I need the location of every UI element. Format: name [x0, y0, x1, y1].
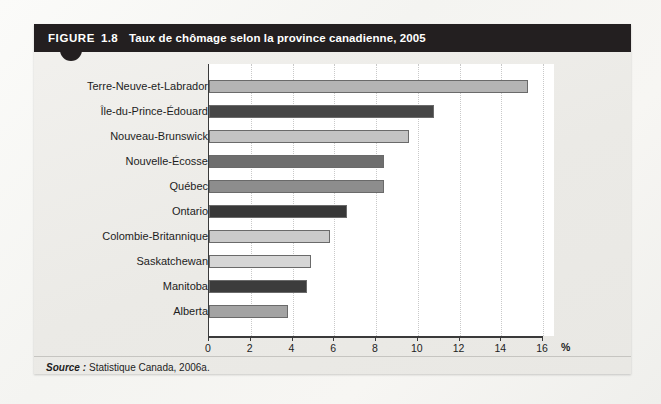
x-axis-tick	[417, 336, 418, 341]
category-label: Ontario	[172, 199, 208, 224]
category-label: Île-du-Prince-Édouard	[100, 99, 208, 124]
figure-header-text: FIGURE 1.8 Taux de chômage selon la prov…	[34, 32, 426, 44]
x-axis-tick	[459, 336, 460, 341]
category-label: Terre-Neuve-et-Labrador	[87, 74, 208, 99]
bar-row	[209, 124, 554, 149]
bar	[209, 230, 330, 243]
bar-row	[209, 149, 554, 174]
bar	[209, 130, 409, 143]
category-label: Manitoba	[163, 274, 208, 299]
x-axis-tick	[542, 336, 543, 341]
x-axis-unit-label: %	[561, 341, 570, 353]
figure-root: FIGURE 1.8 Taux de chômage selon la prov…	[0, 0, 661, 404]
x-axis-tick-label: 6	[330, 342, 336, 354]
x-axis-tick-label: 8	[372, 342, 378, 354]
bar	[209, 205, 347, 218]
x-axis-tick-label: 16	[536, 342, 548, 354]
category-label: Colombie-Britannique	[102, 224, 208, 249]
x-axis-tick-label: 14	[494, 342, 506, 354]
x-axis-tick-label: 12	[453, 342, 465, 354]
bar-row	[209, 99, 554, 124]
bar-row	[209, 224, 554, 249]
bar	[209, 280, 307, 293]
bar-row	[209, 249, 554, 274]
source-value: Statistique Canada, 2006a.	[89, 362, 210, 373]
bar-row	[209, 299, 554, 324]
x-axis-tick	[375, 336, 376, 341]
plot-area	[208, 64, 554, 336]
x-axis-tick	[500, 336, 501, 341]
chart-plot-wrapper: Terre-Neuve-et-LabradorÎle-du-Prince-Édo…	[34, 52, 631, 350]
x-axis-tick-label: 10	[411, 342, 423, 354]
bar-row	[209, 199, 554, 224]
figure-label: FIGURE	[48, 32, 95, 44]
figure-number: 1.8	[101, 32, 118, 44]
x-axis-tick	[208, 336, 209, 341]
category-label: Saskatchewan	[136, 249, 208, 274]
bar	[209, 105, 434, 118]
bar	[209, 80, 528, 93]
x-axis-tick	[333, 336, 334, 341]
bar-row	[209, 74, 554, 99]
bar-row	[209, 174, 554, 199]
x-axis-tick-label: 0	[205, 342, 211, 354]
figure-header-bar: FIGURE 1.8 Taux de chômage selon la prov…	[34, 24, 631, 52]
source-divider	[34, 356, 631, 357]
x-axis-tick	[292, 336, 293, 341]
category-label: Nouvelle-Écosse	[125, 149, 208, 174]
x-axis-tick	[250, 336, 251, 341]
bar	[209, 255, 311, 268]
category-label: Alberta	[173, 299, 208, 324]
bar-series	[209, 74, 554, 324]
category-label: Nouveau-Brunswick	[110, 124, 208, 149]
x-axis-tick-label: 2	[247, 342, 253, 354]
bar	[209, 305, 288, 318]
figure-title: Taux de chômage selon la province canadi…	[129, 32, 426, 44]
bar	[209, 180, 384, 193]
x-axis-tick-label: 4	[289, 342, 295, 354]
bar-row	[209, 274, 554, 299]
source-note: Source :Statistique Canada, 2006a.	[46, 362, 210, 373]
source-label: Source :	[46, 362, 86, 373]
bar	[209, 155, 384, 168]
category-axis-labels: Terre-Neuve-et-LabradorÎle-du-Prince-Édo…	[34, 74, 208, 324]
category-label: Québec	[169, 174, 208, 199]
